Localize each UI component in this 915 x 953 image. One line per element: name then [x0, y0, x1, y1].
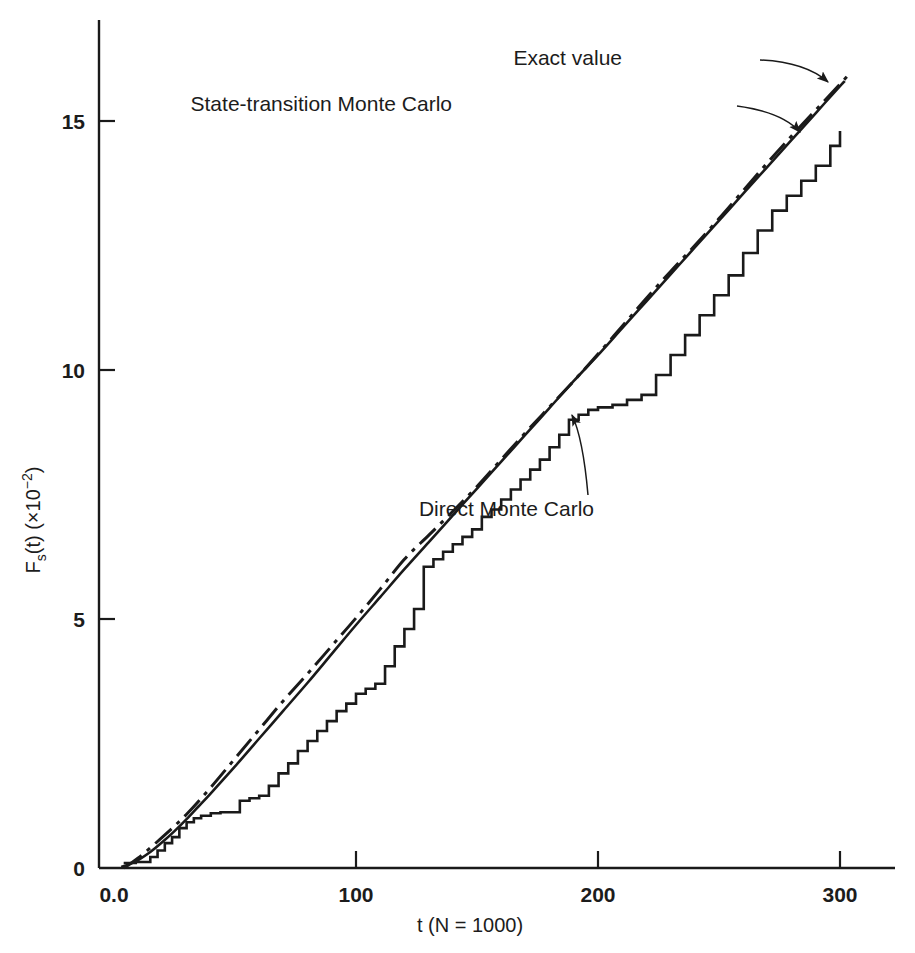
y-tick-label: 15 — [62, 110, 86, 133]
x-tick-label: 0.0 — [99, 883, 128, 906]
annotation-label-exact-value: Exact value — [513, 46, 622, 69]
y-tick-label: 0 — [73, 857, 85, 880]
annotation-arrow-direct-monte-carlo — [572, 415, 588, 495]
y-axis-title-superscript: −2 — [19, 473, 35, 489]
x-tick-label: 200 — [580, 883, 615, 906]
axes: 0510150.0100200300 — [62, 20, 895, 906]
y-tick-label: 5 — [73, 608, 85, 631]
y-tick-label: 10 — [62, 359, 85, 382]
x-tick-label: 300 — [822, 883, 857, 906]
chart-svg: 0510150.0100200300 Exact valueState-tran… — [0, 0, 915, 953]
annotation-label-state-transition-monte-carlo: State-transition Monte Carlo — [191, 92, 452, 115]
y-axis-title-aftersub: (t) (×10 — [22, 489, 44, 554]
y-axis-title-main: F — [22, 561, 44, 573]
figure-canvas: 0510150.0100200300 Exact valueState-tran… — [0, 0, 915, 953]
annotation-arrow-exact-value — [760, 60, 828, 82]
annotation-label-direct-monte-carlo: Direct Monte Carlo — [419, 497, 594, 520]
series-line-exact-value — [121, 81, 845, 867]
data-series — [121, 76, 847, 868]
x-tick-label: 100 — [338, 883, 373, 906]
y-axis-title-subscript: s — [33, 554, 49, 561]
y-axis-title: Fs(t) (×10−2) — [19, 467, 49, 574]
series-line-state-transition-monte-carlo — [124, 76, 848, 868]
annotation-arrow-state-transition-monte-carlo — [737, 106, 800, 132]
svg-text:Fs(t) (×10−2): Fs(t) (×10−2) — [19, 467, 49, 574]
y-axis-title-tail: ) — [22, 467, 44, 474]
x-axis-title: t (N = 1000) — [417, 914, 523, 936]
